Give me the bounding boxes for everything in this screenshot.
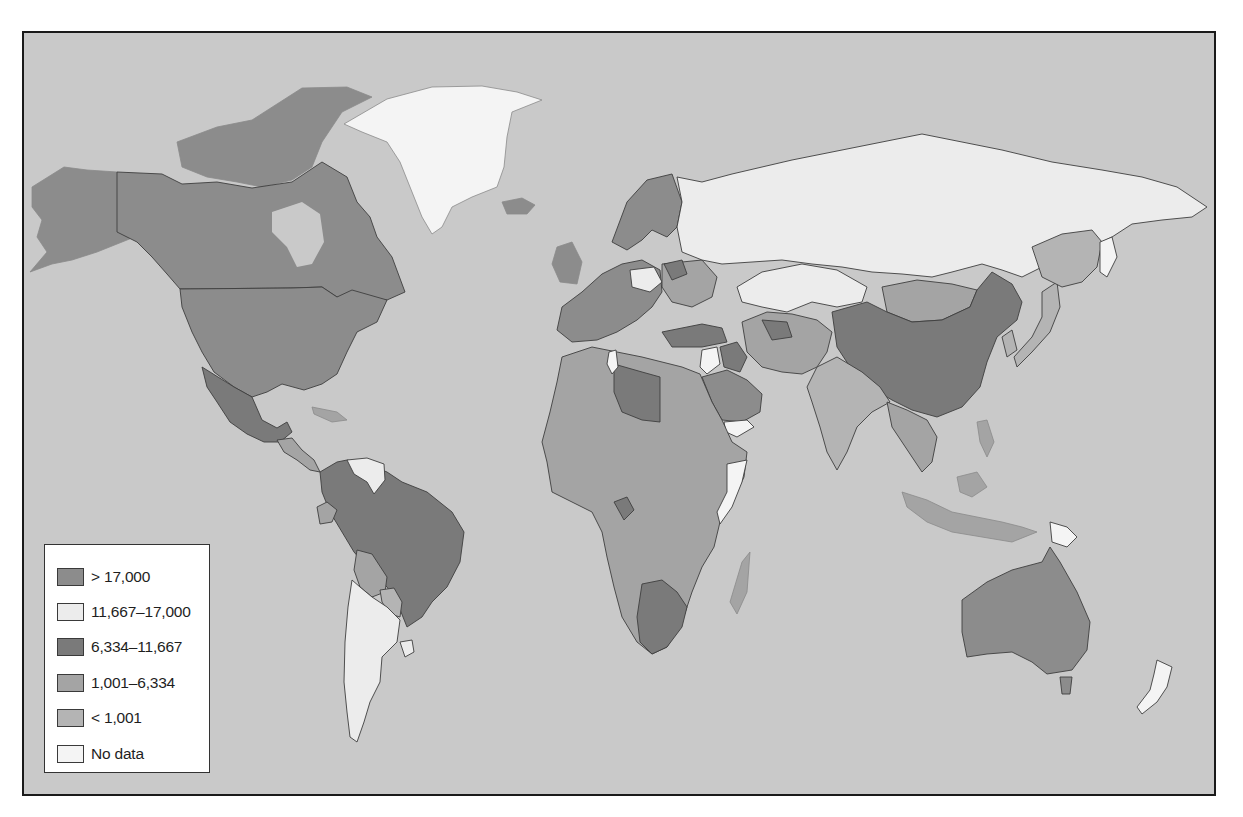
legend-item-11667-17000: 11,667–17,000 bbox=[57, 594, 209, 629]
legend-item-no-data: No data bbox=[57, 736, 209, 771]
legend-label: 1,001–6,334 bbox=[91, 674, 175, 692]
region-tasmania bbox=[1060, 677, 1072, 694]
region-new-zealand bbox=[1137, 660, 1172, 714]
legend-swatch bbox=[57, 603, 84, 621]
region-central-america bbox=[277, 438, 320, 472]
legend-item-6334-11667: 6,334–11,667 bbox=[57, 630, 209, 665]
region-australia bbox=[962, 547, 1090, 674]
region-sakhalin bbox=[1100, 237, 1117, 277]
legend-swatch bbox=[57, 745, 84, 763]
region-philippines bbox=[977, 420, 994, 457]
legend-item-gt-17000: > 17,000 bbox=[57, 559, 209, 594]
region-uruguay bbox=[400, 640, 414, 657]
legend-label: < 1,001 bbox=[91, 709, 142, 727]
region-kazakhstan bbox=[737, 264, 867, 312]
region-iraq bbox=[720, 342, 747, 372]
region-arctic-islands bbox=[177, 87, 372, 187]
region-madagascar bbox=[730, 552, 750, 614]
legend-swatch bbox=[57, 709, 84, 727]
region-syria bbox=[700, 347, 720, 374]
legend: > 17,000 11,667–17,000 6,334–11,667 1,00… bbox=[44, 544, 210, 773]
region-papua-new-guinea bbox=[1050, 522, 1077, 547]
legend-swatch bbox=[57, 674, 84, 692]
region-indonesia bbox=[902, 472, 1037, 542]
legend-label: > 17,000 bbox=[91, 568, 150, 586]
legend-item-lt-1001: < 1,001 bbox=[57, 701, 209, 736]
region-russia bbox=[677, 134, 1207, 277]
region-united-kingdom bbox=[552, 242, 582, 284]
region-turkey bbox=[662, 324, 727, 347]
region-iran-central-asia bbox=[742, 312, 832, 374]
legend-swatch bbox=[57, 568, 84, 586]
legend-label: 11,667–17,000 bbox=[91, 603, 191, 621]
legend-label: No data bbox=[91, 745, 144, 763]
region-caribbean bbox=[312, 407, 347, 422]
legend-label: 6,334–11,667 bbox=[91, 638, 182, 656]
region-iceland bbox=[502, 198, 535, 214]
legend-swatch bbox=[57, 638, 84, 656]
region-scandinavia bbox=[612, 174, 682, 250]
legend-item-1001-6334: 1,001–6,334 bbox=[57, 665, 209, 700]
